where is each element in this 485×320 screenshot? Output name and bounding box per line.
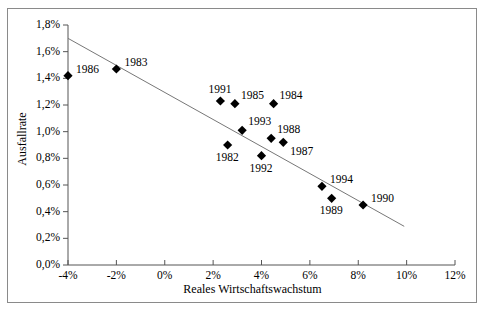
data-point-label: 1991 [208, 84, 231, 96]
data-marker [327, 194, 336, 203]
data-marker [230, 99, 239, 108]
data-marker [317, 182, 326, 191]
data-marker [267, 134, 276, 143]
x-tick-label: 4% [237, 270, 287, 282]
y-axis-title: Ausfallrate [16, 89, 28, 189]
data-marker [269, 99, 278, 108]
data-point-label: 1989 [320, 205, 343, 217]
data-point-label: 1984 [280, 90, 303, 102]
x-tick-label: 12% [430, 270, 480, 282]
data-marker [112, 64, 121, 73]
y-tick-label: 0,2% [8, 232, 60, 244]
x-tick-label: -4% [43, 270, 93, 282]
x-tick-label: 6% [285, 270, 335, 282]
x-tick-label: -2% [91, 270, 141, 282]
scatter-chart-figure: 0,0%0,2%0,4%0,6%0,8%1,0%1,2%1,4%1,6%1,8%… [0, 0, 485, 320]
data-point-label: 1987 [290, 146, 313, 158]
x-tick-label: 8% [333, 270, 383, 282]
x-axis-title: Reales Wirtschaftswachstum [10, 283, 485, 295]
data-point-label: 1993 [248, 116, 271, 128]
x-tick-label: 0% [140, 270, 190, 282]
data-point-label: 1982 [216, 152, 239, 164]
data-marker [223, 140, 232, 149]
data-point-label: 1988 [277, 124, 300, 136]
data-marker [63, 71, 72, 80]
y-tick-label: 1,4% [8, 72, 60, 84]
y-tick-label: 1,6% [8, 46, 60, 58]
data-marker [216, 96, 225, 105]
y-tick-label: 0,4% [8, 206, 60, 218]
data-marker [257, 151, 266, 160]
data-point-label: 1994 [330, 174, 353, 186]
data-point-label: 1983 [124, 57, 147, 69]
y-tick-label: 0,0% [8, 259, 60, 271]
data-point-label: 1986 [76, 64, 99, 76]
y-tick-label: 1,8% [8, 19, 60, 31]
data-point-label: 1985 [241, 90, 264, 102]
data-point-label: 1990 [371, 193, 394, 205]
data-marker [279, 138, 288, 147]
x-tick-label: 10% [382, 270, 432, 282]
x-tick-label: 2% [188, 270, 238, 282]
data-point-label: 1992 [250, 163, 273, 175]
